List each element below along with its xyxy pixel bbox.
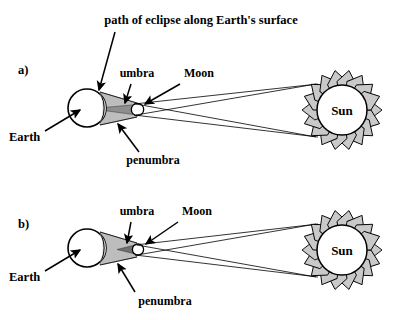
panel-label-a: a) — [18, 63, 28, 77]
panel-a-leaders — [45, 32, 180, 152]
sun-label-a: Sun — [331, 103, 353, 118]
path-of-eclipse-label-a: path of eclipse along Earth's surface — [104, 13, 298, 27]
arrow-path-of-eclipse-a — [99, 32, 115, 90]
eclipse-diagram-canvas: Sun path of eclipse along Earth's surfac… — [0, 0, 402, 320]
umbra-label-b: umbra — [120, 204, 155, 218]
moon-label-a: Moon — [184, 66, 214, 80]
earth-label-a: Earth — [9, 130, 40, 144]
panel-a: Sun path of eclipse along Earth's surfac… — [9, 13, 383, 167]
penumbra-label-b: penumbra — [138, 294, 191, 308]
arrow-umbra-b — [127, 222, 131, 243]
panel-b: Sun b) umbra Moon Earth penumbra — [9, 204, 383, 308]
eclipse-diagram: Sun path of eclipse along Earth's surfac… — [0, 0, 402, 320]
sun-label-b: Sun — [331, 243, 353, 258]
panel-label-b: b) — [18, 217, 29, 231]
arrow-penumbra-a — [118, 124, 139, 152]
moon-label-b: Moon — [182, 204, 212, 218]
earth-label-b: Earth — [9, 270, 40, 284]
penumbra-label-a: penumbra — [126, 153, 179, 167]
arrow-penumbra-b — [118, 264, 135, 292]
umbra-label-a: umbra — [120, 66, 155, 80]
